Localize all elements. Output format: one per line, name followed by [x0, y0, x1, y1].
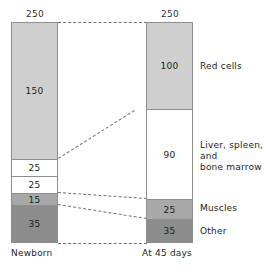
segment-value: 90 [164, 150, 176, 160]
legend-label-muscles: Muscles [200, 203, 237, 214]
segment-45days-muscles: 25 [147, 199, 192, 219]
segment-value: 100 [161, 61, 179, 71]
connector-redcells-base [58, 110, 134, 159]
segment-45days-liver: 90 [147, 109, 192, 199]
bar-at-45-days: 100 90 25 35 [146, 22, 193, 243]
connector-top [58, 22, 147, 23]
segment-value: 15 [29, 195, 41, 205]
axis-caption-at-45-days: At 45 days [142, 248, 192, 258]
right-bar-total-label: 250 [146, 9, 194, 19]
axis-caption-newborn: Newborn [11, 248, 53, 258]
segment-value: 35 [164, 226, 176, 236]
legend-label-liver: Liver, spleen, and bone marrow [200, 140, 263, 173]
segment-value: 25 [164, 205, 176, 215]
segment-newborn-liver-lower: 25 [12, 176, 57, 193]
segment-newborn-other: 35 [12, 205, 57, 242]
connector-muscles-top [58, 192, 147, 199]
connector-bottom [58, 243, 147, 244]
clipped-caption-text [16, 266, 266, 272]
stacked-bar-chart: 250 250 150 25 25 15 35 100 90 25 [0, 0, 271, 272]
bar-newborn: 150 25 25 15 35 [11, 22, 58, 243]
segment-newborn-muscles: 15 [12, 193, 57, 205]
legend-label-red-cells: Red cells [200, 61, 242, 72]
segment-newborn-red-cells: 150 [12, 23, 57, 159]
legend-label-other: Other [200, 226, 227, 237]
left-bar-total-label: 250 [11, 9, 59, 19]
segment-45days-other: 35 [147, 219, 192, 242]
segment-value: 25 [29, 163, 41, 173]
segment-value: 35 [29, 219, 41, 229]
segment-newborn-liver-upper: 25 [12, 159, 57, 176]
segment-value: 150 [26, 86, 44, 96]
segment-value: 25 [29, 180, 41, 190]
segment-45days-red-cells: 100 [147, 23, 192, 109]
connector-other-top [58, 204, 147, 219]
